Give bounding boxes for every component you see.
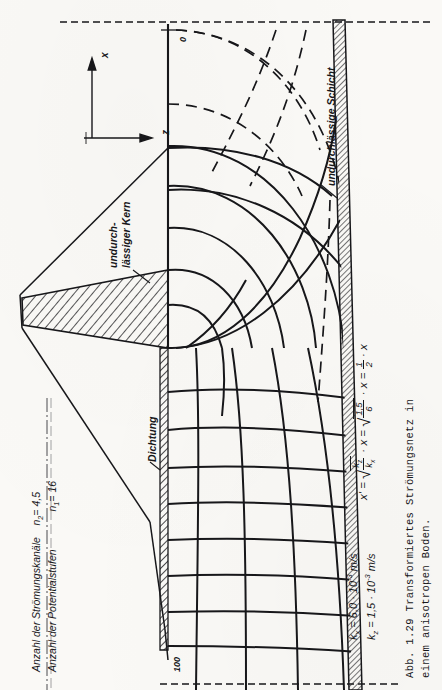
formula-radicand2-den: 6 <box>364 400 374 417</box>
count-potential-steps-value: 16 <box>46 481 58 493</box>
formula-equals-3: = <box>357 373 369 380</box>
radical-sign-2: √ <box>358 418 371 427</box>
radicand-2: 1,56 <box>353 398 374 418</box>
figure-transformed-flow-net: x z 0 100 undurch- lässiger Kern Dichtun… <box>0 0 442 690</box>
impermeable-core-wedge <box>22 270 168 348</box>
formula-radicand1-num: k <box>350 463 361 468</box>
count-potential-steps-equals: = <box>46 496 58 502</box>
count-flow-channels-label: Anzahl der Strömungskanäle <box>30 537 42 672</box>
label-impermeable-layer: undurchlässige Schicht <box>325 68 337 186</box>
parameter-kx-symbol: k <box>347 635 359 641</box>
parameter-kz-exponent: -3 <box>363 574 372 581</box>
formula-radicand1-den-sub: x <box>369 460 376 463</box>
formula-equals-1: = <box>357 482 369 489</box>
formula-radicand1-num-sub: z <box>356 460 363 463</box>
parameter-kz-equals: = <box>365 621 377 627</box>
parameter-kx-unit: m/s <box>347 553 359 571</box>
parameter-kx-equals: = <box>347 621 359 627</box>
count-flow-channels-subscript: 2 <box>37 516 45 520</box>
count-potential-steps-subscript: 1 <box>53 502 61 506</box>
count-flow-channels: Anzahl der Strömungskanäle n2= 4,5 <box>30 492 45 672</box>
parameter-kx-exponent: -3 <box>345 574 354 581</box>
radical-sign-1: √ <box>358 470 371 479</box>
parameter-kx-value: 6,0 · 10 <box>347 581 359 618</box>
axis-label-x: x <box>99 52 110 58</box>
count-flow-channels-equals: = <box>30 510 42 516</box>
count-flow-channels-value: 4,5 <box>30 492 42 507</box>
parameter-kz-unit: m/s <box>365 553 377 571</box>
construction-rays-dashed <box>210 30 330 402</box>
figure-caption-line-1: Abb. 1.29 Transformiertes Strömungsnetz … <box>404 399 416 678</box>
sealing-strip <box>160 348 168 650</box>
transform-formula: x' = √kzkx · x = √1,56 · x = 12 · x <box>350 344 377 500</box>
axis-label-z: z <box>160 130 171 135</box>
parameter-kx-subscript: x <box>353 631 362 635</box>
formula-equals-2: = <box>357 430 369 437</box>
label-sealing: Dichtung <box>146 417 158 463</box>
count-potential-steps-label: Anzahl der Potentialstufen <box>46 549 58 672</box>
flow-net-streamlines <box>168 120 344 690</box>
count-potential-steps: Anzahl der Potentialstufen n1= 16 <box>46 481 61 672</box>
figure-caption-line-2: einem anisotropen Boden. <box>420 518 432 678</box>
head-label-top: 0 <box>178 37 188 42</box>
construction-arcs-dashed <box>168 30 344 210</box>
parameter-kz: kz = 1,5 · 10-3 m/s <box>363 553 380 640</box>
formula-radicand1-den: k <box>363 463 374 468</box>
parameter-kz-symbol: k <box>365 635 377 641</box>
parameter-kx: kx = 6,0 · 10-3 m/s <box>345 553 362 640</box>
parameter-kz-subscript: z <box>371 631 380 635</box>
label-impermeable-core-line1: undurch- <box>107 223 119 269</box>
count-potential-steps-symbol: n <box>46 506 58 512</box>
formula-mult-1: · x <box>357 440 369 453</box>
parameter-kz-value: 1,5 · 10 <box>365 581 377 618</box>
head-label-bottom: 100 <box>172 657 182 672</box>
formula-mult-3: · x <box>357 344 369 357</box>
formula-mult-2: · x <box>357 382 369 395</box>
label-impermeable-core-line2: lässiger Kern <box>120 201 132 268</box>
radicand-1: kzkx <box>350 456 377 471</box>
flow-net-upper-arcs <box>168 147 344 270</box>
formula-lhs: x' <box>357 492 369 500</box>
count-flow-channels-symbol: n <box>30 520 42 526</box>
formula-result-fraction: 12 <box>354 360 374 369</box>
coordinate-axes-cross <box>84 58 152 144</box>
formula-result-den: 2 <box>364 360 374 369</box>
